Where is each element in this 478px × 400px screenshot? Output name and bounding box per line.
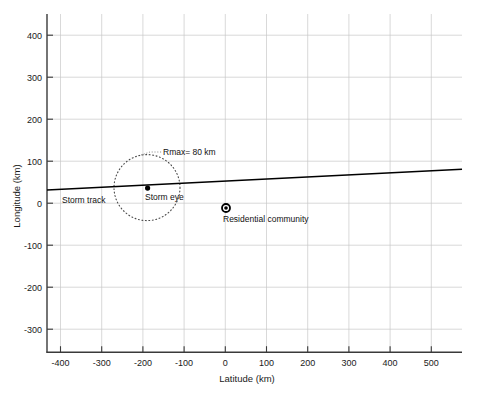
y-tick-label-0: 0 [37, 199, 42, 209]
x-tick-label-300: 300 [341, 358, 356, 368]
axis-spines [46, 14, 462, 353]
x-tick-label--300: -300 [93, 358, 111, 368]
x-axis-title: Latitude (km) [219, 373, 274, 384]
x-tick-label--400: -400 [51, 358, 69, 368]
community-center-dot-icon [224, 206, 228, 210]
residential-community-marker [222, 204, 230, 212]
x-tick-label-200: 200 [300, 358, 315, 368]
x-tick-label-100: 100 [259, 358, 274, 368]
y-tick-labels: 400 300 200 100 0 -100 -200 -300 [24, 31, 42, 335]
y-tick-label-100: 100 [27, 157, 42, 167]
y-tick-marks [47, 35, 53, 329]
storm-track-label: Storm track [62, 195, 106, 205]
x-tick-label-500: 500 [424, 358, 439, 368]
y-tick-label--300: -300 [24, 325, 42, 335]
x-tick-marks [61, 346, 432, 352]
y-tick-label--200: -200 [24, 283, 42, 293]
storm-track-figure: 400 300 200 100 0 -100 -200 -300 -400 -3… [0, 0, 478, 400]
y-tick-label-200: 200 [27, 115, 42, 125]
y-tick-label--100: -100 [24, 241, 42, 251]
storm-eye-label: Storm eye [145, 192, 184, 202]
y-tick-label-300: 300 [27, 73, 42, 83]
x-tick-label--100: -100 [175, 358, 193, 368]
plot-canvas: 400 300 200 100 0 -100 -200 -300 -400 -3… [0, 0, 478, 400]
residential-community-label: Residential community [223, 214, 309, 224]
y-tick-label-400: 400 [27, 31, 42, 41]
x-tick-label--200: -200 [134, 358, 152, 368]
storm-eye-marker [145, 186, 150, 191]
x-tick-labels: -400 -300 -200 -100 0 100 200 300 400 50… [51, 358, 438, 368]
y-axis-title: Longitude (km) [11, 164, 22, 227]
storm-track-line [47, 169, 462, 190]
x-tick-label-0: 0 [223, 358, 228, 368]
x-tick-label-400: 400 [383, 358, 398, 368]
vertical-gridlines [61, 14, 432, 352]
rmax-leader-line [141, 152, 162, 155]
horizontal-gridlines [47, 35, 462, 329]
rmax-label: Rmax= 80 km [163, 147, 216, 157]
